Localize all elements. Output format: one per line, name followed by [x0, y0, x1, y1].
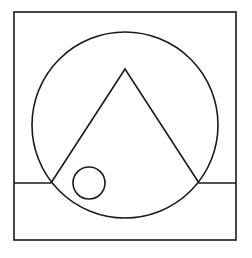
outer-square — [14, 12, 236, 240]
large-circle — [32, 32, 218, 218]
geometric-diagram — [0, 0, 252, 258]
small-circle — [73, 167, 105, 199]
triangle — [51, 69, 199, 183]
